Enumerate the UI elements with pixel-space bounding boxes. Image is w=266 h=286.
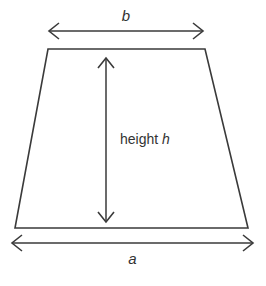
- diagram-canvas: b a height h: [0, 0, 266, 286]
- height-label-variable: h: [162, 131, 170, 147]
- height-label: height h: [120, 131, 170, 147]
- height-dimension-arrow-icon: [98, 58, 114, 222]
- bottom-dimension-arrow-icon: [12, 235, 253, 251]
- top-base-label: b: [0, 7, 252, 24]
- height-label-text: height: [120, 131, 162, 147]
- top-dimension-arrow-icon: [49, 23, 203, 39]
- bottom-base-label: a: [12, 250, 253, 267]
